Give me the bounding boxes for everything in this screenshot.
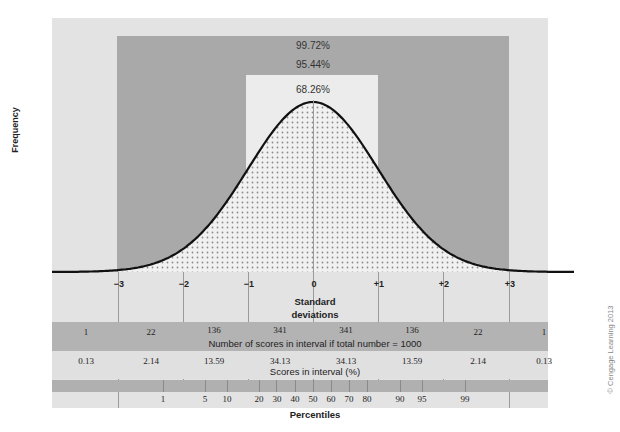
percent-cell: 2.14 <box>448 356 508 366</box>
sd-axis-label-line2: deviations <box>280 308 350 321</box>
sd-tick: −2 <box>169 279 199 289</box>
percent-cell: 0.13 <box>514 356 574 366</box>
copyright: © Cengage Learning 2013 <box>606 305 615 393</box>
count-cell: 22 <box>448 327 508 337</box>
percentile-label: 40 <box>285 394 305 404</box>
sd-tick: 0 <box>299 279 329 289</box>
percentile-tick-95 <box>422 380 423 392</box>
percentile-tick-10 <box>227 380 228 392</box>
percent-cell: 34.13 <box>316 356 376 366</box>
percent-caption: Scores in interval (%) <box>230 366 400 377</box>
percentile-tick-30 <box>276 380 277 392</box>
counts-caption: Number of scores in interval if total nu… <box>180 338 450 349</box>
count-cell: 1 <box>514 327 574 337</box>
percent-cell: 13.59 <box>382 356 442 366</box>
percentile-tick-80 <box>367 380 368 392</box>
sd-tick: +3 <box>495 279 525 289</box>
percentile-tick-90 <box>400 380 401 392</box>
percentile-axis-label: Percentiles <box>270 408 360 421</box>
percentile-label: 1 <box>153 394 173 404</box>
percent-cell: 34.13 <box>250 356 310 366</box>
y-axis-label: Frequency <box>10 107 20 153</box>
percentile-label: 95 <box>412 394 432 404</box>
count-cell: 136 <box>382 325 442 335</box>
percentile-label: 90 <box>390 394 410 404</box>
count-cell: 341 <box>250 325 310 335</box>
percentile-tick-5 <box>205 380 206 392</box>
percent-cell: 13.59 <box>184 356 244 366</box>
count-cell: 341 <box>316 325 376 335</box>
percentile-label: 5 <box>195 394 215 404</box>
percentile-label: 99 <box>455 394 475 404</box>
percent-cell: 2.14 <box>121 356 181 366</box>
percentile-bar <box>52 380 548 392</box>
percentile-label: 80 <box>357 394 377 404</box>
percent-cell: 0.13 <box>56 356 116 366</box>
percentile-label: 70 <box>339 394 359 404</box>
percentile-tick-99 <box>465 380 466 392</box>
percentile-label: 50 <box>303 394 323 404</box>
count-cell: 136 <box>184 325 244 335</box>
percentile-label: 30 <box>267 394 287 404</box>
percentile-tick-50 <box>313 380 314 392</box>
sd-tick: +2 <box>429 279 459 289</box>
sd-axis-label: Standard deviations <box>280 295 350 321</box>
percentile-tick-1 <box>163 380 164 392</box>
percentile-label: 60 <box>321 394 341 404</box>
percentile-tick-40 <box>295 380 296 392</box>
percentile-label: 20 <box>249 394 269 404</box>
percentile-tick-70 <box>349 380 350 392</box>
percentile-label: 10 <box>217 394 237 404</box>
percentile-tick-20 <box>259 380 260 392</box>
count-cell: 1 <box>56 327 116 337</box>
sd-tick: +1 <box>364 279 394 289</box>
sd-axis-label-line1: Standard <box>280 295 350 308</box>
count-cell: 22 <box>121 327 181 337</box>
percentile-tick-60 <box>331 380 332 392</box>
sd-tick: −1 <box>234 279 264 289</box>
sd-tick: −3 <box>104 279 134 289</box>
